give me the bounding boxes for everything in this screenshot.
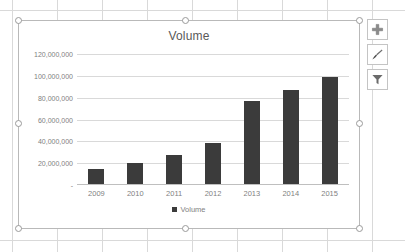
bar-2010[interactable] bbox=[127, 163, 143, 184]
sheet-gridline-horizontal bbox=[0, 10, 405, 11]
y-tick-label: 100,000,000 bbox=[21, 72, 73, 79]
plot-area[interactable]: 120,000,000 100,000,000 80,000,000 60,00… bbox=[77, 54, 349, 185]
selection-handle-middle-right[interactable] bbox=[356, 120, 363, 127]
bar-2013[interactable] bbox=[244, 101, 260, 184]
paintbrush-icon bbox=[371, 48, 384, 61]
x-tick-label: 2012 bbox=[194, 189, 233, 198]
selection-handle-middle-left[interactable] bbox=[15, 120, 22, 127]
value-axis-labels[interactable]: 120,000,000 100,000,000 80,000,000 60,00… bbox=[21, 54, 73, 185]
x-tick-label: 2015 bbox=[310, 189, 349, 198]
selection-handle-bottom-left[interactable] bbox=[15, 225, 22, 232]
y-tick-label: 20,000,000 bbox=[21, 160, 73, 167]
bar-slot bbox=[155, 54, 194, 184]
y-tick-label: 60,000,000 bbox=[21, 116, 73, 123]
funnel-icon bbox=[371, 73, 384, 86]
bar-2009[interactable] bbox=[88, 169, 104, 184]
x-tick-label: 2011 bbox=[155, 189, 194, 198]
bar-series-volume[interactable] bbox=[77, 54, 349, 184]
chart-title[interactable]: Volume bbox=[19, 29, 359, 43]
x-tick-label: 2010 bbox=[116, 189, 155, 198]
y-tick-label: - bbox=[21, 182, 73, 189]
selection-handle-top-left[interactable] bbox=[15, 17, 22, 24]
bar-2015[interactable] bbox=[322, 77, 338, 184]
excel-worksheet-canvas: Volume 120,000,000 100,000,000 80,000,00… bbox=[0, 0, 405, 252]
chart-legend[interactable]: Volume bbox=[19, 205, 359, 214]
x-tick-label: 2013 bbox=[232, 189, 271, 198]
chart-quick-buttons bbox=[367, 19, 389, 90]
selection-handle-bottom-right[interactable] bbox=[356, 225, 363, 232]
value-axis-zero-line bbox=[77, 184, 349, 185]
selection-handle-top-right[interactable] bbox=[356, 17, 363, 24]
bar-slot bbox=[116, 54, 155, 184]
y-tick-label: 120,000,000 bbox=[21, 51, 73, 58]
selection-handle-top-center[interactable] bbox=[182, 17, 189, 24]
legend-swatch-volume bbox=[172, 207, 177, 212]
sheet-gridline-vertical bbox=[12, 0, 13, 252]
bar-2014[interactable] bbox=[283, 90, 299, 184]
bar-slot bbox=[271, 54, 310, 184]
x-tick-label: 2014 bbox=[271, 189, 310, 198]
chart-elements-button[interactable] bbox=[367, 19, 388, 40]
bar-2011[interactable] bbox=[166, 155, 182, 184]
plus-icon bbox=[371, 23, 384, 36]
bar-2012[interactable] bbox=[205, 143, 221, 184]
chart-object[interactable]: Volume 120,000,000 100,000,000 80,000,00… bbox=[18, 20, 360, 229]
x-tick-label: 2009 bbox=[77, 189, 116, 198]
bar-slot bbox=[232, 54, 271, 184]
chart-filters-button[interactable] bbox=[367, 69, 388, 90]
category-axis-labels[interactable]: 2009 2010 2011 2012 2013 2014 2015 bbox=[77, 189, 349, 198]
chart-styles-button[interactable] bbox=[367, 44, 388, 65]
selection-handle-bottom-center[interactable] bbox=[182, 225, 189, 232]
legend-label-volume: Volume bbox=[180, 205, 205, 214]
y-tick-label: 40,000,000 bbox=[21, 138, 73, 145]
y-tick-label: 80,000,000 bbox=[21, 94, 73, 101]
bar-slot bbox=[194, 54, 233, 184]
bar-slot bbox=[310, 54, 349, 184]
sheet-gridline-horizontal bbox=[0, 240, 405, 241]
bar-slot bbox=[77, 54, 116, 184]
